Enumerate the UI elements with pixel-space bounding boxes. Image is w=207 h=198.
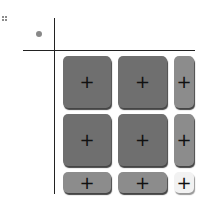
- tile-r1-c3: +: [174, 56, 194, 108]
- plus-icon: +: [135, 73, 150, 91]
- plus-icon: +: [135, 174, 150, 192]
- plus-icon: +: [79, 174, 94, 192]
- tile-r1-c2: +: [118, 56, 167, 108]
- header-dot-icon: [36, 31, 42, 37]
- dotted-corner-mark: [2, 16, 7, 21]
- tile-r1-c1: +: [63, 56, 111, 108]
- plus-icon: +: [176, 73, 191, 91]
- tile-r3-c1: +: [63, 172, 111, 193]
- tile-r2-c1: +: [63, 114, 111, 166]
- tile-r2-c2: +: [118, 114, 167, 166]
- tile-r2-c3: +: [174, 114, 194, 166]
- plus-icon: +: [176, 131, 191, 149]
- plus-icon: +: [79, 131, 94, 149]
- plus-icon: +: [176, 174, 191, 192]
- vertical-axis-line: [54, 18, 55, 194]
- tile-r3-c2: +: [118, 172, 167, 193]
- horizontal-axis-line: [23, 50, 195, 51]
- plus-icon: +: [79, 73, 94, 91]
- plus-icon: +: [135, 131, 150, 149]
- tile-r3-c3: +: [174, 172, 194, 193]
